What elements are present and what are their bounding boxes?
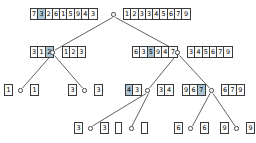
array-cell: 7 xyxy=(229,85,236,95)
array-cell: 2 xyxy=(46,9,53,19)
output-array-l2-d: 679 xyxy=(221,84,245,96)
array-cell: 6 xyxy=(175,123,182,133)
tree-node-l1-right xyxy=(175,50,179,54)
input-array-l2-b: 3 xyxy=(68,84,77,96)
output-array-l1-right: 345679 xyxy=(187,46,233,58)
array-cell: 9 xyxy=(247,123,254,133)
array-cell: 5 xyxy=(67,9,74,19)
tree-node-l3-c xyxy=(188,126,192,130)
output-array-l2-a: 1 xyxy=(30,84,39,96)
output-array-l3-b xyxy=(141,122,148,134)
output-array-l3-a: 3 xyxy=(100,122,109,134)
array-cell: 9 xyxy=(221,123,228,133)
array-cell: 4 xyxy=(165,85,172,95)
array-cell: 3 xyxy=(89,9,96,19)
input-array-l3-d: 9 xyxy=(220,122,229,134)
array-cell: 3 xyxy=(139,9,146,19)
input-array-l2-d: 967 xyxy=(182,84,206,96)
array-cell: 2 xyxy=(131,9,138,19)
tree-node-l2-d xyxy=(209,88,213,92)
tree-node-l2-c xyxy=(145,88,149,92)
array-cell: 7 xyxy=(31,9,38,19)
array-cell: 3 xyxy=(75,123,82,133)
array-cell: 9 xyxy=(237,85,244,95)
array-cell: 3 xyxy=(38,9,45,19)
tree-node-l2-b xyxy=(82,88,86,92)
array-cell: 1 xyxy=(63,47,70,57)
array-cell: 4 xyxy=(82,9,89,19)
array-cell: 4 xyxy=(153,9,160,19)
array-cell: 3 xyxy=(101,123,108,133)
input-array-l2-a: 1 xyxy=(4,84,13,96)
array-cell: 6 xyxy=(190,85,197,95)
input-array-l3-a: 3 xyxy=(74,122,83,134)
array-cell: 1 xyxy=(31,85,38,95)
array-cell: 5 xyxy=(203,47,210,57)
array-cell: 3 xyxy=(140,47,147,57)
array-cell: 3 xyxy=(158,85,165,95)
array-cell: 7 xyxy=(198,85,205,95)
array-cell: 3 xyxy=(133,85,140,95)
input-array-root: 732615943 xyxy=(30,8,98,20)
tree-node-l3-b xyxy=(129,126,133,130)
array-cell: 3 xyxy=(69,85,76,95)
array-cell: 6 xyxy=(168,9,175,19)
output-array-l1-left: 123 xyxy=(62,46,86,58)
tree-node-l2-a xyxy=(18,88,22,92)
array-cell: 3 xyxy=(31,47,38,57)
tree-edges-layer xyxy=(0,0,256,143)
array-cell: 9 xyxy=(224,47,231,57)
input-array-l1-right: 635947 xyxy=(132,46,178,58)
array-cell: 1 xyxy=(5,85,12,95)
tree-node-l3-a xyxy=(88,126,92,130)
array-cell: 9 xyxy=(182,9,189,19)
array-cell: 6 xyxy=(53,9,60,19)
array-cell: 7 xyxy=(175,9,182,19)
output-array-l3-c: 6 xyxy=(200,122,209,134)
output-array-root: 123345679 xyxy=(123,8,191,20)
array-cell: 7 xyxy=(217,47,224,57)
merge-sort-recursion-tree-diagram: 7326159431233456793121236359473456791133… xyxy=(0,0,256,143)
tree-node-l3-d xyxy=(234,126,238,130)
array-cell: 1 xyxy=(60,9,67,19)
array-cell: 5 xyxy=(160,9,167,19)
array-cell: 9 xyxy=(155,47,162,57)
output-array-l2-b: 3 xyxy=(94,84,103,96)
array-cell: 2 xyxy=(70,47,77,57)
array-cell: 9 xyxy=(183,85,190,95)
array-cell: 5 xyxy=(148,47,155,57)
array-cell: 3 xyxy=(78,47,85,57)
array-cell: 4 xyxy=(162,47,169,57)
tree-node-root xyxy=(111,12,115,16)
array-cell: 9 xyxy=(75,9,82,19)
array-cell: 6 xyxy=(222,85,229,95)
input-array-l3-c: 6 xyxy=(174,122,183,134)
array-cell: 4 xyxy=(126,85,133,95)
array-cell: 6 xyxy=(210,47,217,57)
tree-node-l1-left xyxy=(50,50,54,54)
output-array-l2-c: 34 xyxy=(157,84,174,96)
array-cell: 3 xyxy=(95,85,102,95)
array-cell: 3 xyxy=(188,47,195,57)
input-array-l2-c: 43 xyxy=(125,84,142,96)
array-cell: 6 xyxy=(133,47,140,57)
array-cell: 6 xyxy=(201,123,208,133)
array-cell: 3 xyxy=(146,9,153,19)
output-array-l3-d: 9 xyxy=(246,122,255,134)
array-cell: 4 xyxy=(195,47,202,57)
input-array-l3-b xyxy=(115,122,122,134)
array-cell: 1 xyxy=(124,9,131,19)
array-cell: 1 xyxy=(38,47,45,57)
